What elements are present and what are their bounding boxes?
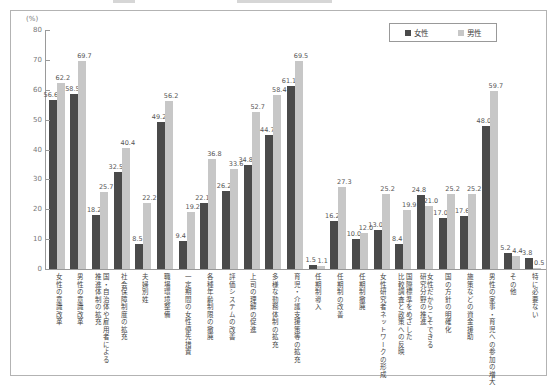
bar-female <box>287 86 295 269</box>
x-axis-label: 女性だからこそできる研究分野の推進 <box>414 273 436 348</box>
legend-swatch-male <box>458 30 464 36</box>
bar-female <box>244 165 252 269</box>
bar-value-label: 19.2 <box>185 204 199 211</box>
legend-label-female: 女性 <box>414 27 428 38</box>
bar-value-label: 40.4 <box>121 140 135 147</box>
y-axis-tick <box>46 30 50 31</box>
bar-value-label: 58.4 <box>272 87 286 94</box>
y-axis-tick <box>46 209 50 210</box>
legend: 女性男性 <box>389 23 497 42</box>
bar-male <box>468 194 476 269</box>
bar-value-label: 25.2 <box>380 186 394 193</box>
bar-value-label: 8.4 <box>392 236 402 243</box>
x-axis-labels: 女性の意識改革男性の意識改革国・自治体や雇用者による推進体制の拡充社会保障制度の… <box>46 273 544 377</box>
bar-value-label: 69.5 <box>294 53 308 60</box>
bar-female <box>504 253 512 269</box>
bar-female <box>114 172 122 269</box>
bar-value-label: 36.8 <box>207 151 221 158</box>
bar-male <box>100 192 108 269</box>
bar-male <box>230 169 238 269</box>
x-axis-label: 一定期間の女性優先措置 <box>176 273 198 356</box>
bar-female <box>157 122 165 269</box>
x-axis-label: 多様な勤務体制の拡充 <box>263 273 285 348</box>
x-axis-label: 評価システムの改善 <box>219 273 241 341</box>
page: (%) 56.662.258.569.718.225.732.540.48.52… <box>0 0 556 385</box>
bar-value-label: 0.5 <box>534 260 544 267</box>
bar-female <box>179 241 187 269</box>
bar-female <box>265 135 273 269</box>
x-axis-label-text: 上司の理解の促進 <box>248 273 256 333</box>
bar-value-label: 3.8 <box>522 250 532 257</box>
bar-value-label: 19.9 <box>402 202 416 209</box>
bar-male <box>382 194 390 269</box>
bar-male <box>122 148 130 269</box>
bar-female <box>395 244 403 269</box>
x-axis-label-text: 任期制導入 <box>313 273 321 311</box>
y-axis-tick <box>46 90 50 91</box>
x-axis-label: 女性の意識改革 <box>46 273 68 326</box>
y-axis-tick-label: 0 <box>26 266 42 273</box>
x-axis-label-text: 女性だからこそできる研究分野の推進 <box>417 273 432 348</box>
bar-value-label: 62.2 <box>56 75 70 82</box>
bar-value-label: 59.7 <box>489 83 503 90</box>
bar-male <box>273 95 281 269</box>
x-axis-label: 任期制の改善 <box>327 273 349 318</box>
x-axis-label: 任期制撤廃 <box>349 273 371 311</box>
x-axis-label-text: 社会保障制度の拡充 <box>118 273 126 341</box>
legend-item-male: 男性 <box>458 27 481 38</box>
x-axis-label-text: 育児・介護支援策等の拡充 <box>291 273 299 363</box>
y-axis-unit-label: (%) <box>26 15 38 23</box>
x-axis-label-text: 各種年齢制限の撤廃 <box>205 273 213 341</box>
bar-female <box>49 100 57 269</box>
bar-female <box>439 218 447 269</box>
bar-male <box>165 101 173 269</box>
x-axis-label-text: 評価システムの改善 <box>226 273 234 341</box>
x-axis-line <box>45 269 546 270</box>
y-axis-tick-label: 40 <box>26 147 42 154</box>
bar-male <box>187 212 195 269</box>
y-axis-tick-label: 80 <box>26 27 42 34</box>
bar-value-label: 25.2 <box>445 186 459 193</box>
bar-female <box>460 216 468 269</box>
bar-male <box>208 159 216 269</box>
bar-value-label: 69.7 <box>77 53 91 60</box>
x-axis-label: 国・自治体や雇用者による推進体制の拡充 <box>89 273 111 363</box>
bar-value-label: 8.5 <box>132 236 142 243</box>
y-axis-tick-label: 20 <box>26 206 42 213</box>
bar-male <box>512 256 520 269</box>
bar-value-label: 56.2 <box>164 93 178 100</box>
plot-area: 56.662.258.569.718.225.732.540.48.522.24… <box>46 30 544 269</box>
y-axis-tick <box>46 179 50 180</box>
x-axis-label-text: その他 <box>508 273 516 296</box>
y-axis-tick-label: 10 <box>26 236 42 243</box>
x-axis-label-text: 国際標準をめざした比較調査と政策への反映 <box>396 273 411 356</box>
bar-male <box>143 203 151 269</box>
x-axis-label: 任期制導入 <box>306 273 328 311</box>
bar-value-label: 9.4 <box>176 233 186 240</box>
bar-value-label: 1.5 <box>305 257 315 264</box>
x-axis-label: 国際標準をめざした比較調査と政策への反映 <box>392 273 414 356</box>
clipped-title-remnant <box>113 0 135 3</box>
bar-value-label: 5.2 <box>500 245 510 252</box>
bar-female <box>482 126 490 269</box>
bar-female <box>92 215 100 269</box>
legend-item-female: 女性 <box>405 27 428 38</box>
x-axis-label-text: 男性の意識改革 <box>75 273 83 326</box>
bar-male <box>295 61 303 269</box>
bar-female <box>309 265 317 269</box>
x-axis-label-text: 男性の家事・育児への参加の増大 <box>486 273 494 385</box>
bar-value-label: 24.8 <box>412 187 426 194</box>
bar-value-label: 25.2 <box>467 186 481 193</box>
bar-value-label: 25.7 <box>99 184 113 191</box>
x-axis-label: 夫婦別姓 <box>133 273 155 303</box>
bar-value-label: 21.0 <box>424 198 438 205</box>
bar-value-label: 52.7 <box>250 104 264 111</box>
x-axis-label-text: 特に必要ない <box>529 273 537 318</box>
legend-label-male: 男性 <box>467 27 481 38</box>
x-axis-label-text: 国・自治体や雇用者による推進体制の拡充 <box>93 273 108 363</box>
clipped-title-remnant <box>237 0 332 3</box>
x-axis-label: 特に必要ない <box>522 273 544 318</box>
bar-male <box>403 210 411 269</box>
legend-swatch-female <box>405 30 411 36</box>
y-axis-tick-label: 50 <box>26 117 42 124</box>
